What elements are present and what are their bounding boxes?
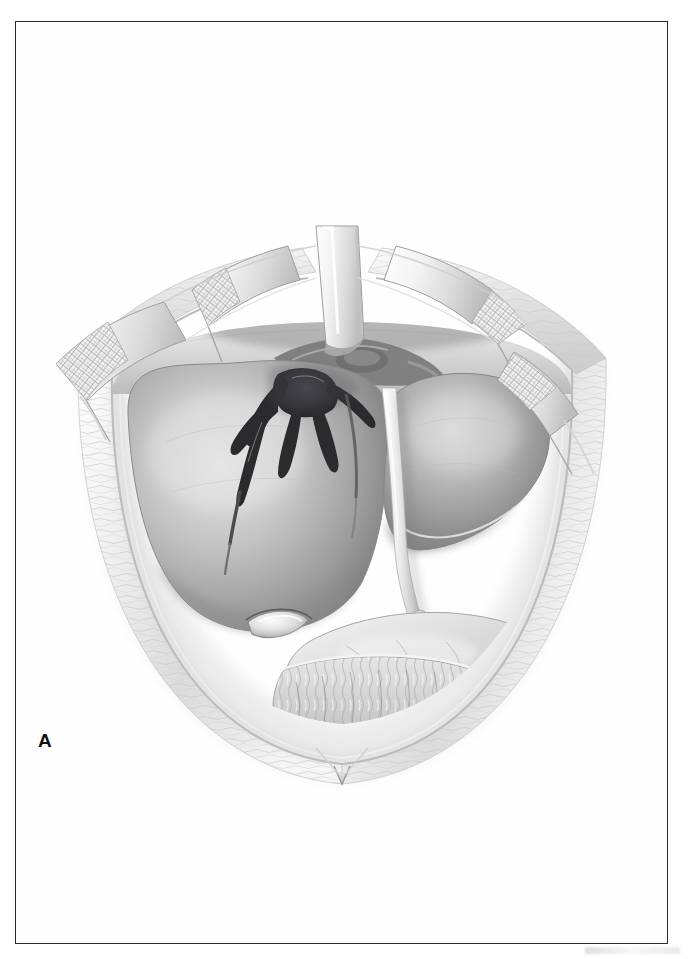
surgical-illustration (16, 22, 666, 942)
plate-page: A (0, 0, 690, 959)
plate-edge-artifact (585, 947, 680, 954)
illustration-canvas (16, 22, 666, 942)
panel-label: A (38, 730, 52, 752)
paper-grain (16, 22, 666, 942)
